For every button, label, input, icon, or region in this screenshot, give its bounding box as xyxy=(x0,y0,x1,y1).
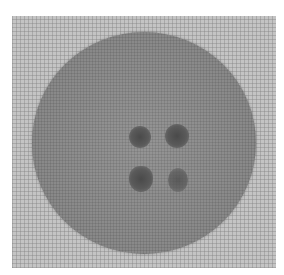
button-disc xyxy=(32,32,256,254)
button-hole-bottom-right xyxy=(168,168,188,192)
button-hole-top-right xyxy=(165,124,189,148)
button-hole-top-left xyxy=(129,126,151,148)
photo xyxy=(12,16,276,268)
button-hole-bottom-left xyxy=(129,166,153,192)
